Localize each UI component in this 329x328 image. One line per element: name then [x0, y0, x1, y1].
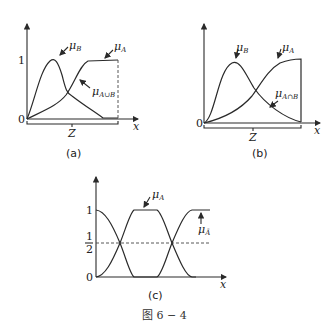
mu-not-a-curve	[96, 210, 210, 277]
figure-caption: 图 6 − 4	[142, 309, 187, 322]
caption-b: (b)	[252, 147, 268, 160]
y-tick-0: 0	[196, 117, 203, 130]
z-label: Z	[248, 131, 257, 144]
y-tick-0: 0	[86, 271, 93, 284]
z-label: Z	[67, 127, 76, 140]
panel-b: 0 x Z μB μA μA∩B (b)	[196, 24, 321, 160]
panel-a: 1 0 x Z μB μA μA∪B (a)	[18, 24, 140, 160]
z-bracket	[27, 121, 118, 124]
label-mu-b: μB	[236, 41, 248, 55]
z-bracket	[204, 125, 301, 128]
y-tick-1: 1	[86, 204, 93, 217]
mu-b-tail-curve	[72, 96, 118, 118]
label-mu-a: μA	[282, 41, 294, 55]
fuzzy-set-figure: 1 0 x Z μB μA μA∪B (a) 0 x Z	[0, 0, 329, 328]
mu-a-curve	[27, 60, 118, 119]
label-mu-b: μB	[69, 39, 81, 53]
x-axis-label: x	[133, 120, 140, 133]
x-axis-label: x	[314, 124, 321, 137]
label-mu-a-union-b: μA∪B	[92, 85, 115, 99]
y-tick-half-den: 2	[86, 243, 93, 256]
caption-a: (a)	[66, 147, 81, 160]
x-axis-label: x	[220, 278, 227, 291]
mu-a-curve	[204, 59, 301, 123]
label-mu-a: μA	[114, 40, 126, 54]
y-tick-half-num: 1	[86, 230, 93, 243]
label-mu-a: μA	[152, 188, 164, 202]
panel-c: 1 1 2 0 x μA μĀ (c)	[85, 177, 227, 302]
label-mu-a-intersect-b: μA∩B	[275, 87, 298, 101]
y-tick-0: 0	[18, 113, 25, 126]
mu-a-curve	[96, 210, 196, 277]
mu-b-curve	[27, 60, 72, 119]
caption-c: (c)	[148, 289, 163, 302]
y-tick-1: 1	[18, 54, 25, 67]
label-mu-not-a: μĀ	[198, 223, 210, 237]
